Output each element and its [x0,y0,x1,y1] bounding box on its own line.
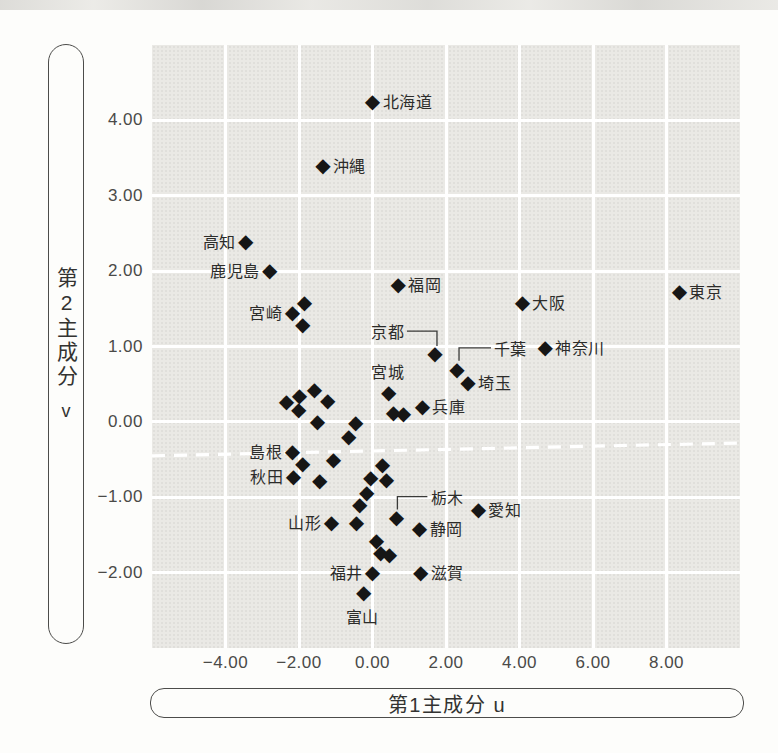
x-axis-tick-label: 6.00 [553,653,633,673]
y-axis-tick-label: 1.00 [0,337,143,357]
x-axis-tick-label: 0.00 [333,653,413,673]
data-point-label: 京都 [371,319,404,343]
data-point-marker: ◆ [324,512,339,532]
data-point-marker: ◆ [365,91,380,111]
data-point-marker: ◆ [413,562,428,582]
data-point-marker: ◆ [389,507,404,527]
data-point-marker: ◆ [381,382,396,402]
data-point-marker: ◆ [349,512,364,532]
x-axis-tick-label: −2.00 [259,653,339,673]
data-point-marker: ◆ [341,426,356,446]
data-point-marker: ◆ [460,372,475,392]
data-point-label: 山形 [288,510,321,534]
horizontal-gridline [152,420,740,423]
data-point-marker: ◆ [365,562,380,582]
data-point-label: 宮城 [371,359,404,383]
data-point-marker: ◆ [412,518,427,538]
data-point-label: 沖縄 [333,153,366,177]
data-point-marker: ◆ [538,337,553,357]
data-point-marker: ◆ [312,470,327,490]
data-point-label: 東京 [689,279,722,303]
horizontal-gridline [152,345,740,348]
data-point-marker: ◆ [297,292,312,312]
data-point-label: 高知 [203,230,236,254]
data-point-label: 宮崎 [249,300,282,324]
scan-artifact-band [0,0,778,10]
data-point-label: 滋賀 [431,560,464,584]
data-point-label: 埼玉 [478,370,511,394]
x-axis-tick-label: −4.00 [186,653,266,673]
data-point-marker: ◆ [396,403,411,423]
data-point-marker: ◆ [295,453,310,473]
data-point-marker: ◆ [291,399,306,419]
data-point-marker: ◆ [672,281,687,301]
data-point-label: 秋田 [250,464,283,488]
data-point-marker: ◆ [471,499,486,519]
data-point-label: 千葉 [494,336,527,360]
x-axis-tick-label: 2.00 [406,653,486,673]
data-point-marker: ◆ [320,390,335,410]
data-point-label: 鹿児島 [210,258,260,282]
data-point-label: 栃木 [431,485,464,509]
x-axis-tick-label: 4.00 [480,653,560,673]
x-axis-title: 第1主成分 u [388,689,506,718]
x-axis-title-pill: 第1主成分 u [150,688,744,718]
data-point-marker: ◆ [315,155,330,175]
y-axis-tick-label: 4.00 [0,110,143,130]
data-point-marker: ◆ [391,274,406,294]
data-point-label: 福岡 [408,272,441,296]
data-point-label: 静岡 [430,516,463,540]
data-point-marker: ◆ [295,314,310,334]
pca-scatter-figure: 第2主成分 v 4.003.002.001.000.00−1.00−2.00−4… [0,0,778,753]
y-axis-title: 第2主成分 [51,267,81,389]
y-axis-tick-label: 3.00 [0,186,143,206]
data-point-label: 愛知 [488,497,521,521]
data-point-marker: ◆ [515,292,530,312]
data-point-marker: ◆ [262,260,277,280]
data-point-marker: ◆ [427,343,442,363]
data-point-marker: ◆ [415,396,430,416]
data-point-label: 富山 [346,604,379,628]
y-axis-tick-label: 2.00 [0,261,143,281]
data-point-label: 福井 [330,560,363,584]
y-axis-tick-label: 0.00 [0,412,143,432]
data-point-marker: ◆ [310,411,325,431]
data-point-label: 兵庫 [432,394,465,418]
data-point-label: 神奈川 [555,335,605,359]
data-point-marker: ◆ [326,449,341,469]
data-point-label: 島根 [249,439,282,463]
data-point-marker: ◆ [382,544,397,564]
data-point-label: 大阪 [532,290,565,314]
data-point-marker: ◆ [356,582,371,602]
x-axis-tick-label: 8.00 [627,653,707,673]
y-axis-tick-label: −2.00 [0,563,143,583]
data-point-marker: ◆ [238,232,253,252]
horizontal-gridline [152,119,740,122]
data-point-label: 北海道 [383,89,433,113]
data-point-marker: ◆ [379,469,394,489]
horizontal-gridline [152,194,740,197]
y-axis-tick-label: −1.00 [0,487,143,507]
